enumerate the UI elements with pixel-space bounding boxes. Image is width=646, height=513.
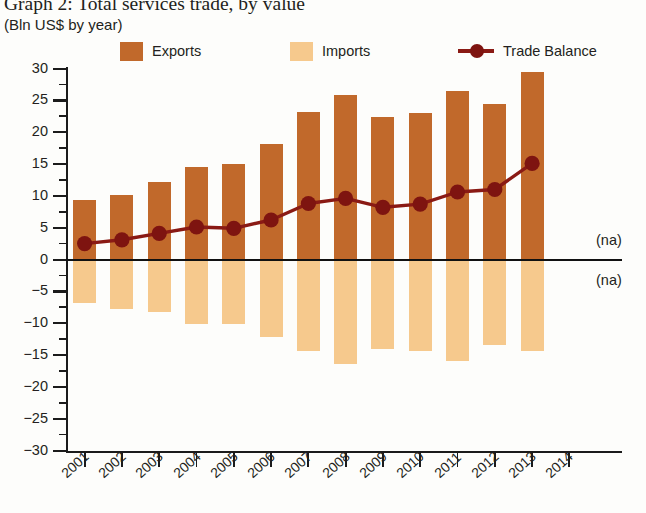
trade-balance-marker-2005	[226, 221, 241, 236]
trade-balance-marker-2010	[413, 197, 428, 212]
plot-area: 302520151050−5−10−15−20−25−30(na)(na)200…	[0, 0, 646, 513]
trade-balance-marker-2012	[487, 182, 502, 197]
trade-balance-marker-2001	[77, 236, 92, 251]
trade-balance-marker-2003	[152, 226, 167, 241]
trade-balance-marker-2007	[301, 196, 316, 211]
trade-balance-series	[0, 0, 646, 513]
trade-balance-marker-2006	[264, 212, 279, 227]
trade-balance-marker-2008	[338, 191, 353, 206]
trade-balance-marker-2002	[114, 232, 129, 247]
trade-balance-marker-2013	[525, 156, 540, 171]
trade-balance-marker-2009	[375, 200, 390, 215]
na-label-exports: (na)	[596, 232, 622, 248]
trade-balance-marker-2004	[189, 219, 204, 234]
trade-balance-marker-2011	[450, 184, 465, 199]
na-label-imports: (na)	[596, 272, 622, 288]
chart-figure: Graph 2: Total services trade, by value …	[0, 0, 646, 513]
